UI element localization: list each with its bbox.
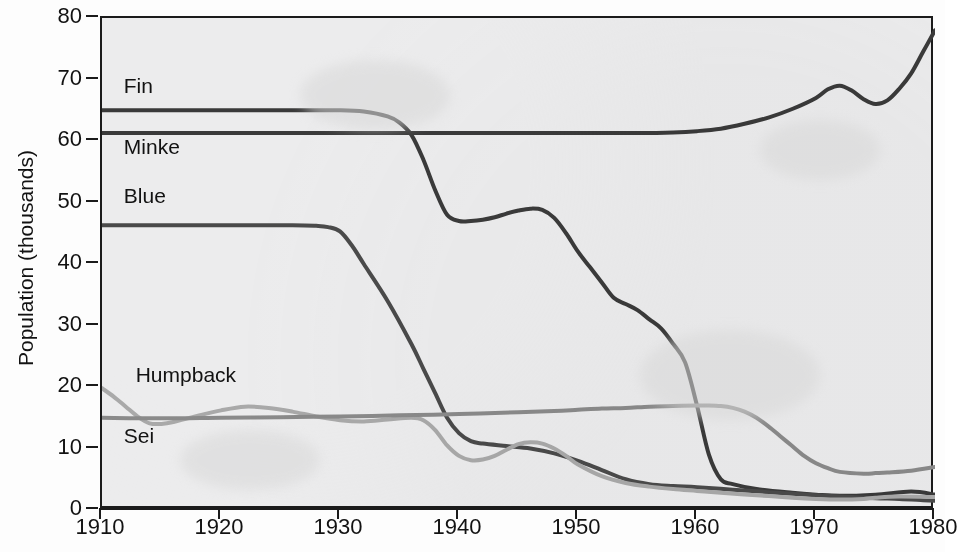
y-tick-label: 80 — [0, 3, 82, 29]
x-axis-line — [100, 508, 933, 510]
y-tick-label: 60 — [0, 126, 82, 152]
series-label-blue: Blue — [124, 184, 166, 208]
y-tick-mark — [86, 200, 98, 202]
y-tick-label: 0 — [0, 495, 82, 521]
series-label-minke: Minke — [124, 135, 180, 159]
y-tick-label: 30 — [0, 311, 82, 337]
series-line-sei — [102, 405, 935, 473]
series-line-humpback — [102, 388, 935, 499]
y-tick-mark — [86, 261, 98, 263]
series-label-fin: Fin — [124, 74, 153, 98]
y-tick-mark — [86, 384, 98, 386]
series-line-minke — [102, 30, 935, 133]
y-tick-label: 50 — [0, 188, 82, 214]
series-line-fin — [102, 110, 935, 496]
y-tick-mark — [86, 446, 98, 448]
plot-area — [100, 16, 933, 508]
y-tick-mark — [86, 138, 98, 140]
series-label-sei: Sei — [124, 424, 154, 448]
y-tick-mark — [86, 507, 98, 509]
y-tick-mark — [86, 77, 98, 79]
y-tick-mark — [86, 15, 98, 17]
series-label-humpback: Humpback — [136, 363, 236, 387]
y-tick-mark — [86, 323, 98, 325]
series-canvas — [102, 18, 935, 510]
y-tick-label: 40 — [0, 249, 82, 275]
y-tick-label: 10 — [0, 434, 82, 460]
y-tick-label: 70 — [0, 65, 82, 91]
y-tick-label: 20 — [0, 372, 82, 398]
